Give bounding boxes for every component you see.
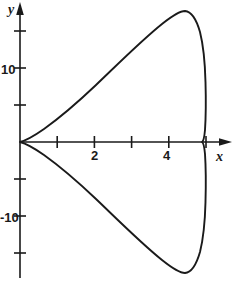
y-axis-arrowhead [16,2,24,15]
plot-canvas [0,0,235,284]
x-tick-label-4: 4 [163,149,170,162]
y-tick-label-minus-10: -10 [0,211,19,224]
math-plot-figure: y x 2 4 10 -10 [0,0,235,284]
x-tick-label-2: 2 [91,149,98,162]
y-axis [16,2,24,278]
y-tick-label-10: 10 [1,63,15,76]
x-axis-name: x [216,150,223,164]
y-axis-name: y [8,3,14,17]
x-axis-arrowhead [219,138,232,146]
x-axis [20,138,232,146]
